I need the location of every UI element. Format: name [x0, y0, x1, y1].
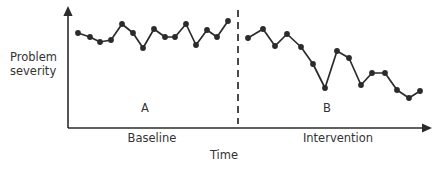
series-intervention: [245, 26, 423, 101]
phase-b-name-label: Intervention: [288, 131, 388, 145]
data-point-marker: [204, 27, 210, 33]
data-point-marker: [284, 31, 290, 37]
series-baseline: [75, 18, 231, 51]
data-point-marker: [382, 70, 388, 76]
x-axis-label: Time: [189, 148, 259, 162]
data-point-marker: [151, 26, 157, 32]
data-point-marker: [87, 34, 93, 40]
data-point-marker: [406, 95, 412, 101]
data-point-marker: [225, 18, 231, 24]
ab-design-line-graph: Problemseverity Time A B Baseline Interv…: [0, 0, 448, 171]
plot-area: [0, 0, 448, 171]
data-point-marker: [298, 44, 304, 50]
data-point-marker: [193, 42, 199, 48]
data-point-marker: [162, 34, 168, 40]
phase-a-name-label: Baseline: [112, 131, 192, 145]
data-point-marker: [97, 39, 103, 45]
x-axis-arrow-icon: [422, 123, 432, 132]
data-point-marker: [119, 21, 125, 27]
data-point-marker: [260, 26, 266, 32]
series-line: [248, 29, 420, 98]
phase-b-letter: B: [315, 101, 339, 115]
phase-a-letter: A: [133, 101, 157, 115]
data-point-marker: [346, 55, 352, 61]
data-point-marker: [130, 30, 136, 36]
data-point-marker: [358, 82, 364, 88]
y-axis-label-line1: Problem: [10, 50, 57, 64]
data-point-marker: [322, 85, 328, 91]
y-axis-label: Problemseverity: [10, 50, 66, 78]
data-point-marker: [214, 34, 220, 40]
y-axis-label-line2: severity: [10, 64, 56, 78]
data-point-marker: [183, 21, 189, 27]
data-point-marker: [334, 48, 340, 54]
data-point-marker: [140, 45, 146, 51]
data-point-marker: [75, 30, 81, 36]
data-point-marker: [108, 37, 114, 43]
data-point-marker: [172, 34, 178, 40]
data-point-marker: [272, 43, 278, 49]
data-point-marker: [310, 61, 316, 67]
data-point-marker: [394, 87, 400, 93]
data-point-marker: [417, 88, 423, 94]
data-point-marker: [245, 35, 251, 41]
y-axis-arrow-icon: [63, 6, 72, 16]
data-point-marker: [369, 70, 375, 76]
